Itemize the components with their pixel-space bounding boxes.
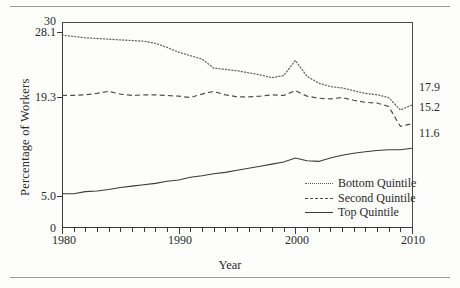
x-tickmark-2001 xyxy=(307,228,308,232)
x-tickmark-1986 xyxy=(132,228,133,232)
y-tick-0: 0 xyxy=(0,222,56,234)
legend-label-top-quintile: Top Quintile xyxy=(338,205,399,220)
x-axis-label: Year xyxy=(0,258,460,273)
dashed-line-icon xyxy=(305,194,333,202)
x-tickmark-1999 xyxy=(284,228,285,232)
x-tickmark-1982 xyxy=(85,228,86,232)
series-bottom-quintile xyxy=(62,35,412,110)
y-tick-5-0: 5.0 xyxy=(0,190,56,202)
x-tickmark-1988 xyxy=(155,228,156,232)
legend: Bottom Quintile Second Quintile Top Quin… xyxy=(305,176,416,220)
y-tick-right-15-2: 15.2 xyxy=(419,101,440,113)
legend-item-bottom-quintile: Bottom Quintile xyxy=(305,176,416,191)
x-tickmark-2009 xyxy=(400,228,401,232)
line-chart: Percentage of Workers 30 28.1 19.3 5.0 0… xyxy=(0,0,460,288)
x-tickmark-1990 xyxy=(179,228,180,234)
dotted-line-icon xyxy=(305,179,333,187)
y-tickmark-28-1 xyxy=(57,32,62,33)
x-tickmark-2000 xyxy=(295,228,296,234)
x-tickmark-2010 xyxy=(412,228,413,234)
y-tick-19-3: 19.3 xyxy=(0,91,56,103)
x-tickmark-1995 xyxy=(237,228,238,232)
x-tickmark-1991 xyxy=(190,228,191,232)
x-tickmark-2005 xyxy=(354,228,355,232)
y-tickmark-19-3 xyxy=(57,97,62,98)
x-tickmark-2007 xyxy=(377,228,378,232)
y-tick-right-11-6: 11.6 xyxy=(419,127,440,139)
x-tickmark-1998 xyxy=(272,228,273,232)
x-tickmark-1981 xyxy=(74,228,75,232)
x-tick-2000: 2000 xyxy=(267,234,327,246)
figure-page: Percentage of Workers 30 28.1 19.3 5.0 0… xyxy=(0,0,460,288)
legend-item-top-quintile: Top Quintile xyxy=(305,205,416,220)
y-tick-right-17-9: 17.9 xyxy=(419,81,440,93)
y-tickmark-5-0 xyxy=(57,196,62,197)
legend-label-second-quintile: Second Quintile xyxy=(338,191,416,206)
x-tick-1980: 1980 xyxy=(34,234,94,246)
x-tickmark-2008 xyxy=(389,228,390,232)
x-tickmark-1984 xyxy=(109,228,110,232)
y-tick-28-1: 28.1 xyxy=(0,26,56,38)
x-tickmark-1987 xyxy=(144,228,145,232)
x-tick-1990: 1990 xyxy=(150,234,210,246)
x-tickmark-1985 xyxy=(120,228,121,232)
x-tickmark-2003 xyxy=(330,228,331,232)
x-tickmark-2002 xyxy=(319,228,320,232)
x-tickmark-1983 xyxy=(97,228,98,232)
x-tickmark-1992 xyxy=(202,228,203,232)
x-tickmark-2006 xyxy=(365,228,366,232)
x-tickmark-1993 xyxy=(214,228,215,232)
x-tick-2010: 2010 xyxy=(383,234,443,246)
x-tickmark-1996 xyxy=(249,228,250,232)
x-tickmark-1994 xyxy=(225,228,226,232)
x-tickmark-1989 xyxy=(167,228,168,232)
x-tickmark-1997 xyxy=(260,228,261,232)
x-tickmark-1980 xyxy=(62,228,63,234)
legend-label-bottom-quintile: Bottom Quintile xyxy=(338,176,416,191)
series-second-quintile xyxy=(62,91,412,127)
solid-line-icon xyxy=(305,208,333,216)
legend-item-second-quintile: Second Quintile xyxy=(305,191,416,206)
x-tickmark-2004 xyxy=(342,228,343,232)
